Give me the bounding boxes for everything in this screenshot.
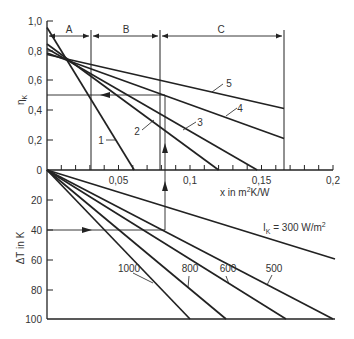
dt-axis-label: ΔT in K [15,231,26,264]
eta-line-5 [47,55,284,109]
reading-eta-arrowhead [100,92,110,98]
eta-line-4 [47,53,284,139]
line-4-label: 4 [237,103,243,114]
x-axis-label: x in m2K/W [220,186,270,198]
ik-label: IK = 300 W/m2 [263,221,326,235]
eta-tick-0: 0 [36,165,42,176]
line-1-label: 1 [98,135,104,146]
eta-ticks [47,21,53,140]
x-tick-0-15: 0,15 [252,175,272,186]
dt-tick-100: 100 [25,314,42,325]
region-c-label: C [217,24,224,35]
dt-tick-60: 60 [31,255,43,266]
eta-tick-0-4: 0,4 [28,105,42,116]
eta-tick-0-8: 0,8 [28,46,42,57]
reading-dt-arrowhead [82,227,92,233]
dt-tick-40: 40 [31,225,43,236]
label-800: 800 [182,263,199,274]
eta-tick-0-2: 0,2 [28,135,42,146]
region-b-label: B [123,24,130,35]
collector-efficiency-chart: 1,0 0,8 0,6 0,4 0,2 0 20 40 60 80 100 0,… [0,0,354,339]
label-1000: 1000 [118,263,141,274]
dt-tick-80: 80 [31,285,43,296]
label-500: 500 [266,263,283,274]
dt-line-800 [47,170,226,319]
eta-axis-label: ηK [15,95,28,106]
region-a-label: A [66,24,73,35]
x-tick-0-2: 0,2 [326,175,340,186]
line-5-label: 5 [226,78,232,89]
line-3-label: 3 [197,117,203,128]
eta-tick-1-0: 1,0 [28,16,42,27]
dt-tick-20: 20 [31,195,43,206]
reading-x-arrowhead-lower [162,181,168,191]
eta-line-3 [47,49,257,171]
line-2-label: 2 [134,126,140,137]
eta-tick-0-6: 0,6 [28,75,42,86]
x-tick-0-1: 0,1 [183,175,197,186]
lower-chart [47,170,335,319]
x-tick-0-05: 0,05 [109,175,129,186]
label-600: 600 [220,263,237,274]
reading-x-arrowhead-upper [162,143,168,153]
upper-chart [47,21,335,319]
dt-ticks [47,200,53,290]
x-ticks [61,165,333,170]
